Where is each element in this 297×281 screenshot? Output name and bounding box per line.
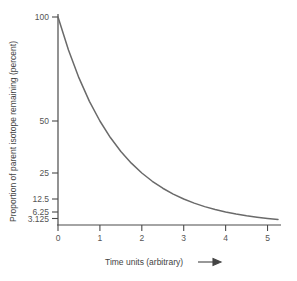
decay-chart-figure: 100502512.56.253.125 012345 Proportion o… xyxy=(0,0,297,281)
x-tick-label: 0 xyxy=(56,233,61,243)
x-axis-group: 012345 xyxy=(56,225,281,243)
x-tick-group: 012345 xyxy=(56,225,271,243)
x-tick-label: 3 xyxy=(181,233,186,243)
x-axis-title: Time units (arbitrary) xyxy=(105,257,183,267)
x-tick-label: 4 xyxy=(223,233,228,243)
y-axis-title: Proportion of parent isotope remaining (… xyxy=(8,41,18,222)
y-tick-label: 25 xyxy=(40,168,50,178)
x-tick-label: 1 xyxy=(98,233,103,243)
y-tick-label: 12.5 xyxy=(32,194,49,204)
x-tick-label: 2 xyxy=(139,233,144,243)
y-tick-group: 100502512.56.253.125 xyxy=(28,12,58,224)
decay-curve-line xyxy=(58,17,278,220)
y-tick-label: 100 xyxy=(35,12,49,22)
y-axis-group: 100502512.56.253.125 xyxy=(28,12,58,225)
y-tick-label: 50 xyxy=(40,116,50,126)
chart-canvas: 100502512.56.253.125 012345 Proportion o… xyxy=(0,0,297,281)
y-tick-label: 3.125 xyxy=(28,214,50,224)
x-axis-arrow-icon xyxy=(198,259,221,266)
x-tick-label: 5 xyxy=(265,233,270,243)
